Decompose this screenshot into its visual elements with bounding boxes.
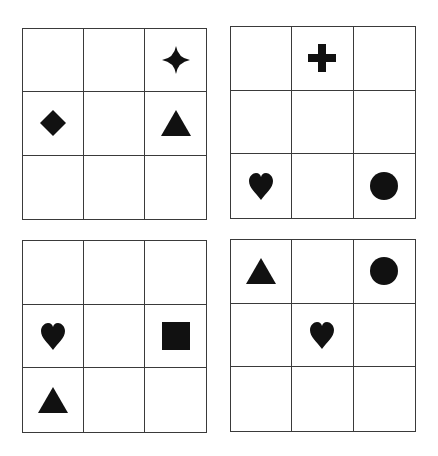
- circle-icon: [367, 169, 401, 203]
- grid-cell-r1-c2: [354, 304, 415, 368]
- grid-top-left: [22, 28, 207, 220]
- grid-cell-r2-c0: [231, 367, 292, 431]
- grid-cell-r2-c0: [23, 156, 84, 219]
- square-icon: [159, 319, 193, 353]
- heart-icon: [36, 319, 70, 353]
- heart-icon: [305, 318, 339, 352]
- grid-cell-r1-c2: [145, 92, 206, 155]
- grid-cell-r0-c1: [84, 29, 145, 92]
- grid-cell-r1-c0: [23, 92, 84, 155]
- diamond-icon: [36, 106, 70, 140]
- grid-cell-r0-c1: [84, 241, 145, 305]
- grid-cell-r1-c1: [292, 304, 353, 368]
- grid-cell-r0-c1: [292, 240, 353, 304]
- grid-cell-r0-c0: [231, 240, 292, 304]
- circle-icon: [367, 254, 401, 288]
- grid-cell-r0-c2: [354, 27, 415, 91]
- triangle-icon: [244, 254, 278, 288]
- heart-icon: [244, 169, 278, 203]
- grid-cell-r1-c0: [231, 304, 292, 368]
- grid-cell-r1-c1: [84, 92, 145, 155]
- grid-cell-r0-c1: [292, 27, 353, 91]
- grid-cell-r2-c2: [145, 156, 206, 219]
- grid-cell-r0-c2: [145, 241, 206, 305]
- grid-cell-r1-c0: [23, 305, 84, 369]
- grid-cell-r1-c2: [354, 91, 415, 155]
- grid-cell-r2-c1: [84, 368, 145, 432]
- grid-cell-r2-c2: [354, 154, 415, 218]
- star4-icon: [159, 43, 193, 77]
- grid-cell-r2-c1: [292, 367, 353, 431]
- grid-cell-r1-c0: [231, 91, 292, 155]
- grid-cell-r1-c2: [145, 305, 206, 369]
- grid-cell-r1-c1: [84, 305, 145, 369]
- triangle-icon: [159, 106, 193, 140]
- grid-bottom-right: [230, 239, 416, 432]
- grid-cell-r2-c0: [231, 154, 292, 218]
- grid-cell-r2-c2: [145, 368, 206, 432]
- grid-cell-r0-c0: [23, 241, 84, 305]
- grid-cell-r2-c1: [84, 156, 145, 219]
- plus-icon: [305, 41, 339, 75]
- grid-cell-r0-c0: [23, 29, 84, 92]
- grid-cell-r2-c2: [354, 367, 415, 431]
- grid-cell-r0-c2: [145, 29, 206, 92]
- grid-top-right: [230, 26, 416, 219]
- grid-bottom-left: [22, 240, 207, 433]
- grid-cell-r2-c1: [292, 154, 353, 218]
- grid-cell-r1-c1: [292, 91, 353, 155]
- grid-cell-r0-c0: [231, 27, 292, 91]
- grid-cell-r2-c0: [23, 368, 84, 432]
- triangle-icon: [36, 383, 70, 417]
- grid-cell-r0-c2: [354, 240, 415, 304]
